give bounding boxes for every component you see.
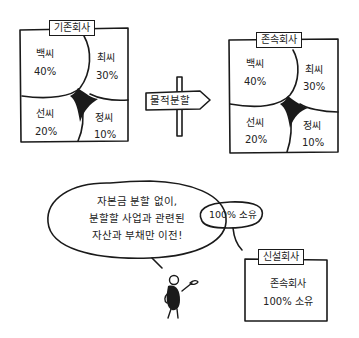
new-company-box [245,259,327,321]
shareholder-name-jeong: 정씨 [303,120,321,132]
shareholder-name-seon: 선씨 [246,117,264,129]
shareholder-name-baek: 백씨 [246,58,264,70]
shareholder-share-jeong: 10% [302,137,324,149]
shareholder-share-jeong: 10% [94,129,116,141]
new-company-line-1: 존속회사 [250,278,326,290]
shareholder-share-baek: 40% [244,76,266,88]
new-company-title: 신설회사 [258,249,304,265]
ownership-bubble-text: 100% 소유 [206,209,260,221]
existing-company-title: 기존회사 [49,20,95,36]
shareholder-share-choi: 30% [96,70,118,82]
speech-bubble-line-2: 분할할 사업과 관련된 [62,210,212,227]
shareholder-share-baek: 40% [34,66,56,78]
shareholder-share-seon: 20% [35,126,57,138]
shareholder-name-jeong: 정씨 [95,112,113,124]
shareholder-name-seon: 선씨 [36,108,54,120]
shareholder-name-baek: 백씨 [36,48,54,60]
existing-company-box [20,28,128,142]
speech-bubble-line-3: 자산과 부채만 이전! [62,227,212,244]
shareholder-share-seon: 20% [245,134,267,146]
surviving-company-title: 존속회사 [256,32,302,48]
shareholder-share-choi: 30% [303,81,325,93]
shareholder-name-choi: 최씨 [305,64,323,76]
speech-bubble-line-1: 자본금 분할 없이, [62,193,212,210]
shareholder-name-choi: 최씨 [97,52,115,64]
new-company-line-2: 100% 소유 [250,296,326,308]
signpost-label: 물적분할 [150,94,190,106]
